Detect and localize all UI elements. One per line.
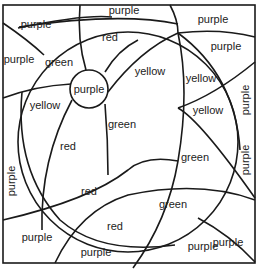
region-label-red-top: red [102, 32, 118, 43]
region-label-yellow-left: yellow [30, 100, 61, 111]
region-label-top-left-purple: purple [21, 19, 52, 30]
curve-red-left [79, 5, 86, 70]
region-label-red-middle: red [81, 186, 97, 197]
arc-top-right [178, 31, 255, 37]
region-label-top-purple: purple [109, 5, 140, 16]
region-label-yellow-lower-right: yellow [193, 105, 224, 116]
curve-left-down [42, 100, 72, 230]
region-label-right-purple-vertical: purple [240, 85, 251, 116]
region-label-purple-bottom: purple [81, 247, 112, 258]
region-label-red-left-upper: red [60, 141, 76, 152]
region-label-green-upper-left: green [45, 57, 73, 68]
line-left [3, 84, 71, 98]
region-label-purple-bottom-right: purple [188, 241, 219, 252]
arc-left [21, 92, 175, 247]
region-label-left-purple: purple [4, 54, 35, 65]
region-label-yellow-right: yellow [186, 73, 217, 84]
region-label-right-purple-upper: purple [211, 41, 242, 52]
region-label-green-lower: green [159, 199, 187, 210]
region-label-center-purple: purple [74, 84, 105, 95]
region-label-left-purple-vertical: purple [6, 166, 17, 197]
region-label-red-lower: red [107, 221, 123, 232]
region-label-purple-lower-left: purple [22, 232, 53, 243]
region-label-right-purple-lower: purple [240, 145, 251, 176]
region-label-green-center: green [108, 119, 136, 130]
region-label-yellow-upper: yellow [135, 66, 166, 77]
region-label-green-right: green [181, 152, 209, 163]
region-label-top-right-purple: purple [198, 14, 229, 25]
coloring-diagram: purplepurplepurplepurplegreenredpurplepu… [0, 0, 258, 270]
